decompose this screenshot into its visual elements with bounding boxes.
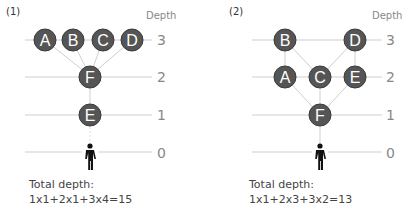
node-A: A — [34, 29, 56, 51]
svg-text:F: F — [315, 107, 325, 124]
svg-text:D: D — [349, 32, 361, 49]
node-B: B — [274, 29, 296, 51]
svg-text:D: D — [126, 32, 138, 49]
panel-label: (1) — [6, 6, 20, 17]
node-C: C — [92, 29, 114, 51]
depth-label-3: 3 — [386, 33, 395, 47]
svg-text:F: F — [85, 69, 95, 86]
depth-label-2: 2 — [157, 70, 166, 84]
diagram-panel-1: A B C D F E (1) Depth 3 2 1 0 Total dept… — [0, 0, 204, 216]
total-depth-caption: Total depth: 1x1+2x1+3x4=15 — [29, 177, 132, 207]
node-A: A — [274, 66, 296, 88]
node-F: F — [309, 104, 331, 126]
svg-text:B: B — [68, 32, 79, 49]
depth-axis-title: Depth — [372, 10, 402, 21]
depth-label-1: 1 — [157, 108, 166, 122]
node-F: F — [79, 66, 101, 88]
caption-formula: 1x1+2x1+3x4=15 — [29, 192, 132, 207]
caption-formula: 1x1+2x3+3x2=13 — [249, 192, 352, 207]
svg-text:C: C — [314, 69, 326, 86]
svg-text:E: E — [85, 107, 96, 124]
depth-label-0: 0 — [157, 146, 166, 160]
depth-label-0: 0 — [386, 146, 395, 160]
svg-text:C: C — [97, 32, 109, 49]
person-icon — [82, 143, 98, 170]
diagram-panel-2: B D A C E F (2) Depth 3 2 1 0 Total dept… — [204, 0, 407, 216]
node-C: C — [309, 66, 331, 88]
depth-axis-title: Depth — [146, 10, 176, 21]
node-D: D — [121, 29, 143, 51]
svg-text:B: B — [280, 32, 291, 49]
total-depth-caption: Total depth: 1x1+2x3+3x2=13 — [249, 177, 352, 207]
svg-text:A: A — [280, 69, 291, 86]
svg-text:E: E — [350, 69, 361, 86]
caption-title: Total depth: — [29, 177, 132, 192]
node-E: E — [344, 66, 366, 88]
node-D: D — [344, 29, 366, 51]
node-B: B — [62, 29, 84, 51]
caption-title: Total depth: — [249, 177, 352, 192]
depth-label-3: 3 — [157, 33, 166, 47]
depth-label-2: 2 — [386, 70, 395, 84]
depth-label-1: 1 — [386, 108, 395, 122]
svg-text:A: A — [40, 32, 51, 49]
person-icon — [312, 143, 328, 170]
panel-label: (2) — [229, 6, 243, 17]
node-E: E — [79, 104, 101, 126]
